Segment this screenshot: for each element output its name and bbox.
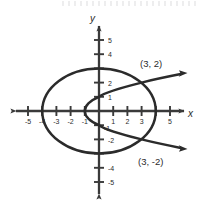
- y-tick-label--2: -2: [108, 137, 114, 144]
- y-tick-label-5: 5: [108, 37, 112, 44]
- x-tick-label-3: 3: [140, 118, 144, 125]
- coordinate-plane-figure: -5 -4 -3 -2 -1 1 2 3 5 5 4 2 1 -1 -2 -4 …: [0, 0, 200, 203]
- y-tick-label-4: 4: [108, 51, 112, 58]
- x-tick-label-1: 1: [111, 118, 115, 125]
- y-tick-label--5: -5: [108, 179, 114, 186]
- graph-canvas: -5 -4 -3 -2 -1 1 2 3 5 5 4 2 1 -1 -2 -4 …: [0, 0, 200, 203]
- y-axis-label: y: [89, 13, 96, 24]
- x-tick-label-2: 2: [125, 118, 129, 125]
- x-tick-label-5: 5: [168, 118, 172, 125]
- point-label-3-2: (3, 2): [140, 58, 162, 69]
- x-tick-label--3: -3: [53, 118, 59, 125]
- x-tick-label--5: -5: [25, 118, 31, 125]
- x-tick-label--2: -2: [67, 118, 73, 125]
- point-label-3-neg2: (3, -2): [138, 156, 163, 167]
- y-tick-label-1: 1: [108, 94, 112, 101]
- x-axis-label: x: [187, 108, 194, 119]
- y-tick-label-2: 2: [108, 80, 112, 87]
- y-tick-label--4: -4: [108, 165, 114, 172]
